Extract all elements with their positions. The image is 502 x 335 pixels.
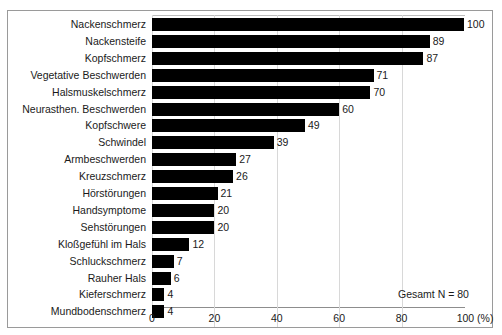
bar-value-label: 20 [217,203,229,217]
bar-value-label: 26 [236,169,248,183]
bar-value-label: 49 [308,118,320,132]
bar-value-label: 71 [377,68,389,82]
category-label: Kopfschwere [85,119,146,132]
bar-row: 21 [8,187,492,200]
category-label: Mundbodenschmerz [51,305,146,318]
bar [152,255,174,268]
category-label: Schwindel [98,136,146,149]
bar-row: 49 [8,119,492,132]
bar-row: 87 [8,52,492,65]
bar-value-label: 60 [342,102,354,116]
bar [152,204,214,217]
bar [152,238,189,251]
total-note: Gesamt N = 80 [398,288,469,300]
category-label: Nackenschmerz [71,18,146,31]
bar [152,136,274,149]
category-label: Kreuzschmerz [79,170,146,183]
bar-value-label: 21 [221,186,233,200]
bar-row: 39 [8,136,492,149]
bar-value-label: 4 [167,287,173,301]
bar-value-label: 89 [433,34,445,48]
category-label: Handsymptome [72,204,146,217]
category-label: Hörstörungen [82,187,146,200]
bar-row: 6 [8,272,492,285]
bar [152,272,171,285]
category-label: Kieferschmerz [79,288,146,301]
bar [152,119,305,132]
bar [152,18,464,31]
bar-value-label: 87 [426,51,438,65]
bar [152,221,214,234]
bar [152,288,164,301]
x-tick-label: 100 (%) [457,312,494,324]
bar [152,187,218,200]
category-label: Sehstörungen [81,221,146,234]
bar [152,103,339,116]
category-label: Neurasthen. Beschwerden [22,103,146,116]
category-label: Halsmuskelschmerz [52,86,146,99]
bar-value-label: 39 [277,135,289,149]
bar [152,153,236,166]
category-label: Vegetative Beschwerden [30,69,146,82]
bar-value-label: 20 [217,220,229,234]
x-tick-label: 60 [333,312,345,324]
x-tick-label: 40 [271,312,283,324]
bar [152,52,423,65]
bar-row: 89 [8,35,492,48]
bar [152,170,233,183]
category-label: Schluckschmerz [70,255,146,268]
bar-value-label: 100 [467,17,485,31]
chart-frame: 100898771706049392726212020127644 Nacken… [7,10,493,328]
category-label: Nackensteife [85,35,146,48]
bar [152,69,374,82]
category-label: Kloßgefühl im Hals [58,238,146,251]
bar-value-label: 12 [192,237,204,251]
bar [152,35,430,48]
x-tick-label: 20 [209,312,221,324]
category-label: Rauher Hals [88,272,146,285]
bar-value-label: 7 [177,254,183,268]
x-tick-label: 80 [396,312,408,324]
category-label: Armbeschwerden [64,153,146,166]
category-label: Kopfschmerz [85,52,146,65]
bar-value-label: 4 [167,304,173,318]
bar [152,86,370,99]
bar-value-label: 6 [174,271,180,285]
x-tick-label: 0 [149,312,155,324]
bar-value-label: 70 [373,85,385,99]
bar-value-label: 27 [239,152,251,166]
